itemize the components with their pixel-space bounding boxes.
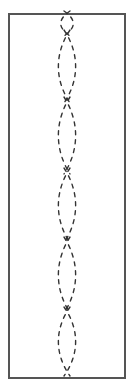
loop-left-arc xyxy=(58,30,70,103)
loop-right-arc xyxy=(64,168,76,243)
loop-right-arc xyxy=(64,30,76,103)
loop-right-arc xyxy=(64,97,76,174)
loop-left-arc xyxy=(58,237,70,313)
diagram-canvas xyxy=(0,0,134,385)
dashed-chain xyxy=(58,11,75,376)
loop-right-arc xyxy=(64,237,76,313)
loop-left-arc xyxy=(58,168,70,243)
outer-frame xyxy=(9,14,125,378)
loop-right-arc xyxy=(64,307,76,376)
loop-left-arc xyxy=(58,97,70,174)
loop-left-arc xyxy=(58,307,70,376)
